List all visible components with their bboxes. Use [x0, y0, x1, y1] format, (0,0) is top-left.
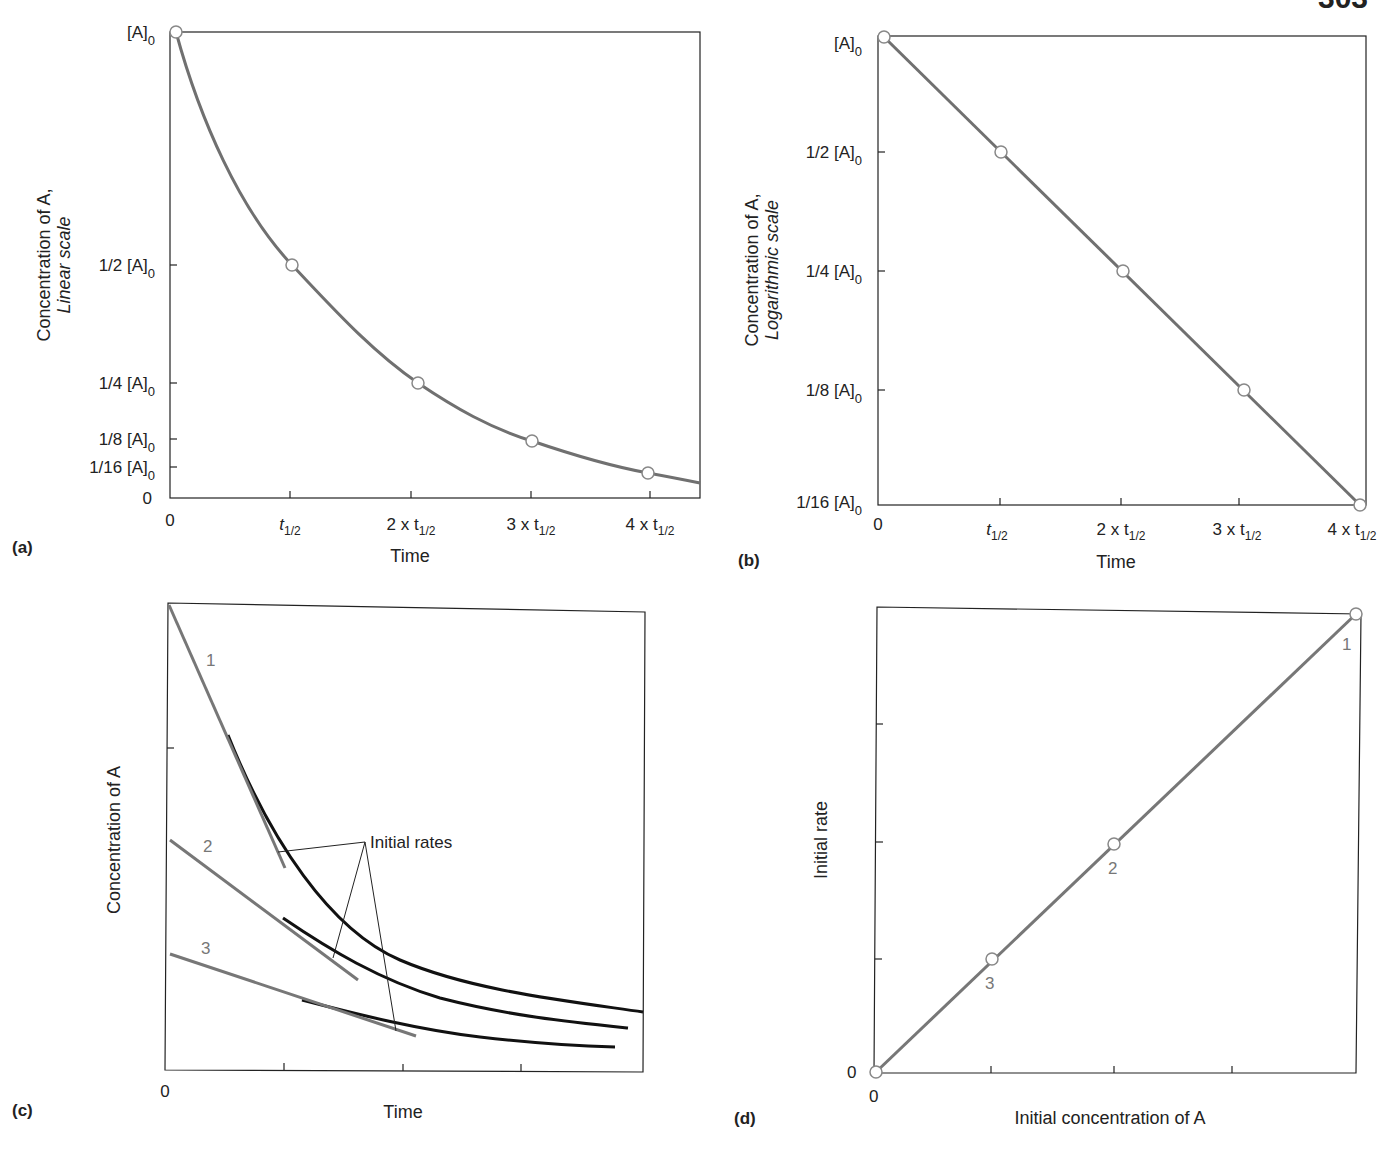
- figure-canvas: 303 [A]0 1/2 [A]0 1/4 [A]0: [0, 0, 1393, 1165]
- svg-text:2 x t1/2: 2 x t1/2: [387, 515, 436, 538]
- svg-text:1: 1: [206, 651, 215, 670]
- decay-curves: [228, 735, 643, 1047]
- svg-text:1/4 [A]0: 1/4 [A]0: [806, 262, 862, 287]
- svg-text:1/2 [A]0: 1/2 [A]0: [806, 143, 862, 168]
- marker-circle-icon: [1350, 608, 1362, 620]
- marker-circle-icon: [1354, 499, 1366, 511]
- y-axis-title: Concentration of A: [104, 766, 124, 914]
- svg-text:2: 2: [1108, 859, 1117, 878]
- x-tick-labels: 0 t1/2 2 x t1/2 3 x t1/2 4 x t1/2: [873, 515, 1376, 543]
- svg-text:Initial rate: Initial rate: [811, 801, 831, 879]
- svg-text:[A]0: [A]0: [834, 34, 862, 59]
- data-markers: [170, 26, 654, 479]
- plot-frame: [170, 32, 700, 498]
- panel-b: [A]0 1/2 [A]0 1/4 [A]0 1/8 [A]0 1/16 [A]…: [738, 31, 1377, 572]
- svg-text:4 x t1/2: 4 x t1/2: [1328, 520, 1377, 543]
- svg-text:1: 1: [1342, 635, 1351, 654]
- svg-text:1/16 [A]0: 1/16 [A]0: [89, 458, 155, 483]
- svg-text:Concentration of A,: Concentration of A,: [742, 193, 762, 346]
- marker-circle-icon: [986, 953, 998, 965]
- page-number: 303: [1318, 0, 1368, 14]
- svg-text:t1/2: t1/2: [279, 515, 301, 538]
- panel-tag: (c): [12, 1101, 33, 1120]
- svg-text:Concentration of A: Concentration of A: [104, 766, 124, 914]
- marker-circle-icon: [1238, 384, 1250, 396]
- marker-circle-icon: [642, 467, 654, 479]
- annotation-initial-rates: Initial rates: [370, 833, 452, 852]
- marker-circle-icon: [995, 146, 1007, 158]
- x-axis-title: Time: [1096, 552, 1135, 572]
- y-origin-label: 0: [847, 1063, 856, 1082]
- y-tick-labels: [A]0 1/2 [A]0 1/4 [A]0 1/8 [A]0 1/16 [A]…: [89, 23, 155, 508]
- marker-circle-icon: [870, 1066, 882, 1078]
- panel-tag: (b): [738, 551, 760, 570]
- svg-text:3 x t1/2: 3 x t1/2: [507, 515, 556, 538]
- decay-curve: [176, 32, 700, 483]
- tangent-2: [170, 840, 358, 980]
- tangent-1: [169, 605, 285, 868]
- svg-text:1/2 [A]0: 1/2 [A]0: [99, 256, 155, 281]
- svg-text:2 x t1/2: 2 x t1/2: [1097, 520, 1146, 543]
- y-tick-labels: [A]0 1/2 [A]0 1/4 [A]0 1/8 [A]0 1/16 [A]…: [796, 34, 862, 518]
- svg-text:t1/2: t1/2: [986, 520, 1008, 543]
- x-tick-labels: 0 t1/2 2 x t1/2 3 x t1/2 4 x t1/2: [165, 511, 674, 538]
- y-axis-title: Concentration of A, Linear scale: [34, 188, 74, 341]
- annotation-pointers: [278, 842, 396, 1031]
- point-labels: 1 2 3: [985, 635, 1351, 993]
- panel-tag: (a): [12, 538, 33, 557]
- svg-text:0: 0: [873, 515, 882, 534]
- y-tick-marks: [170, 265, 650, 498]
- tangent-3: [170, 954, 416, 1036]
- svg-text:0: 0: [165, 511, 174, 530]
- panel-tag: (d): [734, 1109, 756, 1128]
- svg-text:1/8 [A]0: 1/8 [A]0: [806, 381, 862, 406]
- x-origin-label: 0: [160, 1082, 169, 1101]
- svg-text:3 x t1/2: 3 x t1/2: [1213, 520, 1262, 543]
- x-origin-label: 0: [869, 1087, 878, 1106]
- marker-circle-icon: [170, 26, 182, 38]
- svg-text:Linear scale: Linear scale: [54, 216, 74, 313]
- marker-circle-icon: [286, 259, 298, 271]
- svg-text:Concentration of A,: Concentration of A,: [34, 188, 54, 341]
- marker-circle-icon: [412, 377, 424, 389]
- tick-marks: [878, 152, 1239, 505]
- x-axis-title: Time: [383, 1102, 422, 1122]
- curve-2: [283, 918, 628, 1028]
- y-axis-title: Initial rate: [811, 801, 831, 879]
- svg-text:[A]0: [A]0: [127, 23, 155, 48]
- svg-text:3: 3: [201, 939, 210, 958]
- marker-circle-icon: [1117, 265, 1129, 277]
- curve-3: [302, 1000, 615, 1047]
- svg-text:1/4 [A]0: 1/4 [A]0: [99, 374, 155, 399]
- marker-circle-icon: [526, 435, 538, 447]
- svg-text:303: 303: [1318, 0, 1368, 14]
- svg-text:4 x t1/2: 4 x t1/2: [626, 515, 675, 538]
- marker-circle-icon: [878, 31, 890, 43]
- svg-text:3: 3: [985, 974, 994, 993]
- svg-text:1/8 [A]0: 1/8 [A]0: [99, 430, 155, 455]
- panel-c: Initial rates 1 2 3 0 Time Concentration…: [12, 603, 645, 1122]
- x-axis-title: Initial concentration of A: [1014, 1108, 1205, 1128]
- svg-text:0: 0: [143, 489, 152, 508]
- x-axis-title: Time: [390, 546, 429, 566]
- panel-d: 1 2 3 0 0 Initial concentration of A Ini…: [734, 607, 1362, 1128]
- svg-text:1/16 [A]0: 1/16 [A]0: [796, 493, 862, 518]
- svg-text:2: 2: [203, 837, 212, 856]
- marker-circle-icon: [1108, 838, 1120, 850]
- curve-1: [228, 735, 643, 1012]
- y-axis-title: Concentration of A, Logarithmic scale: [742, 193, 782, 346]
- svg-text:Logarithmic scale: Logarithmic scale: [762, 200, 782, 340]
- panel-a: [A]0 1/2 [A]0 1/4 [A]0 1/8 [A]0 1/16 [A]…: [12, 23, 700, 566]
- tick-marks: [167, 748, 521, 1071]
